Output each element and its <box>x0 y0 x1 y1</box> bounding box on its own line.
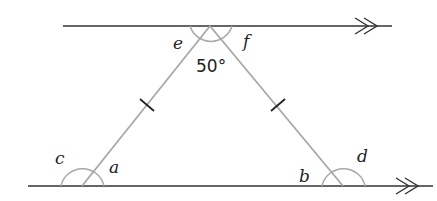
label-a: a <box>109 157 119 177</box>
apex-angle-label: 50° <box>196 56 226 76</box>
label-d: d <box>357 146 368 166</box>
geometry-diagram: e f 50° c a b d <box>0 0 437 201</box>
label-b: b <box>299 166 310 186</box>
bottom-right-angle-arc <box>322 169 365 186</box>
left-side-tick-mark <box>140 99 154 111</box>
label-f: f <box>241 31 252 51</box>
triangle-left-side <box>82 26 210 186</box>
label-e: e <box>173 33 183 53</box>
bottom-left-angle-arc <box>61 169 104 186</box>
label-c: c <box>55 148 65 168</box>
